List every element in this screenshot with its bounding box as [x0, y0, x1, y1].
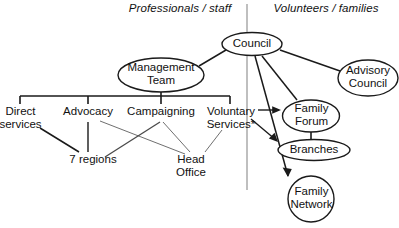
- arrowhead-voluntary-services-family-forum: [272, 106, 281, 114]
- arrowhead-council-family-network: [283, 168, 292, 177]
- organisation-structure-diagram: Professionals / staff Volunteers / famil…: [0, 0, 399, 228]
- edge-voluntary-services-head-office: [205, 130, 222, 152]
- node-shape-advisory-council: [338, 60, 398, 96]
- node-shape-council: [222, 33, 282, 56]
- edge-advocacy-head-office: [100, 121, 185, 154]
- node-shape-management-team: [118, 58, 204, 92]
- node-shape-family-network: [288, 176, 334, 222]
- edge-council-family-forum: [262, 56, 297, 100]
- edge-council-advisory-council: [280, 50, 340, 71]
- node-shape-family-forum: [283, 100, 340, 132]
- edge-campaigning-seven-regions: [105, 122, 160, 157]
- edge-direct-services-seven-regions: [40, 128, 79, 152]
- edge-council-management-team: [199, 50, 226, 66]
- diagram-canvas: [0, 0, 399, 228]
- node-shape-branches: [278, 140, 350, 161]
